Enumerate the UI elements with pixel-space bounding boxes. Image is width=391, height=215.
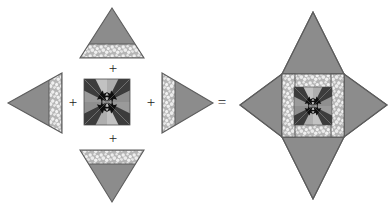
star-point-left — [240, 74, 282, 137]
left-triangle — [8, 71, 62, 135]
plus-left-operator: + — [66, 95, 80, 110]
top-triangle — [78, 8, 146, 58]
star-point-top — [282, 12, 344, 74]
star-center-block — [294, 87, 332, 125]
quilt-assembly-illustration — [0, 0, 391, 215]
result-star-block — [240, 12, 387, 199]
diagram-canvas: + + + + = — [0, 0, 391, 215]
right-triangle — [162, 71, 213, 135]
equals-operator: = — [214, 95, 230, 110]
plus-bottom-operator: + — [106, 131, 120, 146]
star-point-right — [344, 74, 387, 137]
plus-top-operator: + — [106, 61, 120, 76]
center-square-block — [84, 79, 130, 125]
plus-right-operator: + — [144, 95, 158, 110]
star-point-bottom — [282, 137, 344, 199]
bottom-triangle — [78, 150, 146, 202]
